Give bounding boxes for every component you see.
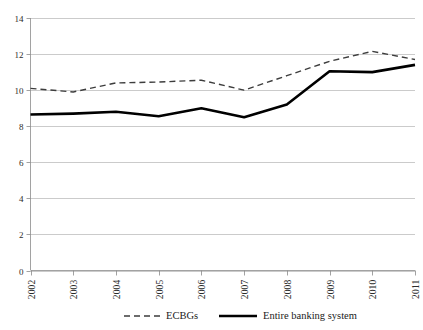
series-line-entire-banking-system (31, 65, 416, 117)
line-chart-svg: 02468101214 2002200320042005200620072008… (0, 0, 423, 330)
x-tick-label: 2007 (240, 279, 250, 299)
x-tick-label: 2004 (112, 279, 122, 299)
y-tick-label: 12 (15, 50, 24, 60)
gridlines (31, 19, 416, 272)
x-tick-label: 2011 (411, 279, 421, 298)
y-tick-label: 4 (19, 194, 24, 204)
y-tick-label: 2 (19, 230, 24, 240)
x-tick-label: 2010 (368, 279, 378, 299)
y-tick-marks (27, 19, 31, 272)
x-tick-label: 2005 (155, 279, 165, 299)
y-tick-label: 14 (15, 14, 25, 24)
legend-label-entire-banking-system: Entire banking system (263, 310, 357, 321)
y-tick-label: 6 (19, 158, 24, 168)
y-tick-label: 8 (19, 122, 24, 132)
y-tick-label: 10 (15, 86, 25, 96)
x-tick-label: 2009 (326, 279, 336, 299)
data-series-group (31, 51, 416, 117)
chart-container: 02468101214 2002200320042005200620072008… (0, 0, 423, 330)
legend: ECBGs Entire banking system (124, 310, 357, 321)
y-tick-label: 0 (19, 267, 24, 277)
legend-label-ecbgs: ECBGs (166, 310, 198, 321)
x-tick-labels: 2002200320042005200620072008200920102011 (27, 279, 421, 299)
x-tick-label: 2002 (27, 279, 37, 299)
x-tick-label: 2008 (283, 279, 293, 299)
plot-area: 02468101214 2002200320042005200620072008… (0, 0, 423, 330)
x-tick-label: 2006 (197, 279, 207, 299)
x-tick-label: 2003 (69, 279, 79, 299)
y-tick-labels: 02468101214 (15, 14, 25, 277)
